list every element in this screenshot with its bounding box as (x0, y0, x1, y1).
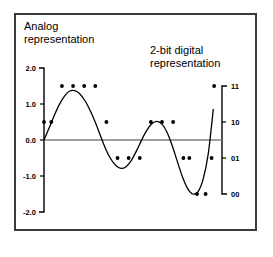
sample-dot (181, 156, 185, 160)
sample-dot (160, 120, 164, 124)
left-axis-tick-label: -2.0 (23, 208, 36, 217)
right-axis-tick-label: 10 (231, 118, 239, 127)
sample-dot (212, 84, 216, 88)
sample-dot (149, 120, 153, 124)
sample-dot (42, 120, 46, 124)
sample-dot (210, 156, 214, 160)
left-axis-tick-label: -1.0 (23, 172, 36, 181)
right-axis-tick-label: 00 (231, 190, 239, 199)
sample-dot (171, 120, 175, 124)
sample-dot (127, 156, 131, 160)
sample-dot (93, 84, 97, 88)
right-axis-tick-label: 11 (231, 82, 239, 91)
left-axis: 2.01.00.0-1.0-2.0 (23, 64, 44, 217)
right-axis-spine (222, 86, 227, 194)
sample-dot (116, 156, 120, 160)
sample-dot (138, 156, 142, 160)
analog-signal-curve (44, 90, 213, 194)
plot-area: 2.01.00.0-1.0-2.0 11100100 (0, 0, 273, 257)
sample-dot (60, 84, 64, 88)
sample-dot (195, 192, 199, 196)
sample-dot (204, 192, 208, 196)
sample-dot (49, 120, 53, 124)
right-axis-tick-label: 01 (231, 154, 239, 163)
left-axis-tick-label: 0.0 (26, 136, 36, 145)
sample-dot (187, 156, 191, 160)
sample-dot (82, 84, 86, 88)
figure-container: Analog representation 2-bit digital repr… (0, 0, 273, 257)
sample-dot (71, 84, 75, 88)
left-axis-tick-label: 1.0 (26, 100, 36, 109)
sample-dot (105, 120, 109, 124)
right-axis: 11100100 (222, 82, 239, 199)
analog-waveform-path (44, 90, 213, 194)
left-axis-tick-label: 2.0 (26, 64, 36, 73)
